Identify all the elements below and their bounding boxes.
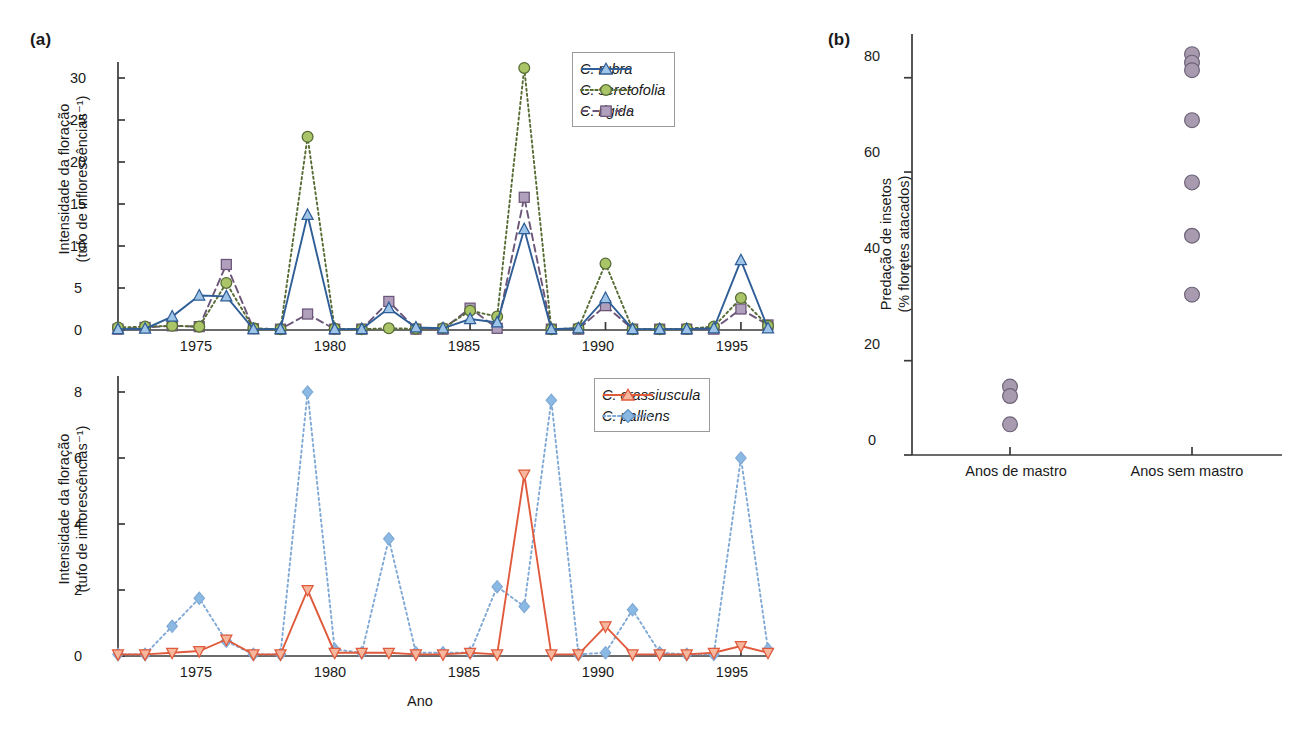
scatter-point xyxy=(1185,287,1200,302)
scatter-point xyxy=(1185,63,1200,78)
scatter-point xyxy=(1185,175,1200,190)
scatter-point xyxy=(1003,389,1018,404)
figure-root: (a) Intensidade da floração (tufo de inf… xyxy=(0,0,1300,739)
scatter-point xyxy=(1003,417,1018,432)
panel-b-plot xyxy=(0,0,1300,739)
scatter-point xyxy=(1185,228,1200,243)
scatter-point xyxy=(1185,113,1200,128)
